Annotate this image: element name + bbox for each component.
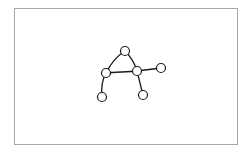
control-point-top[interactable] xyxy=(121,47,130,56)
letter-a-glyph xyxy=(0,0,251,152)
control-point-far-right[interactable] xyxy=(157,64,166,73)
control-point-right-mid[interactable] xyxy=(133,67,142,76)
control-point-right-bottom[interactable] xyxy=(139,91,148,100)
glyph-nodes xyxy=(98,47,166,102)
control-point-left-bottom[interactable] xyxy=(98,93,107,102)
control-point-left-mid[interactable] xyxy=(102,69,111,78)
